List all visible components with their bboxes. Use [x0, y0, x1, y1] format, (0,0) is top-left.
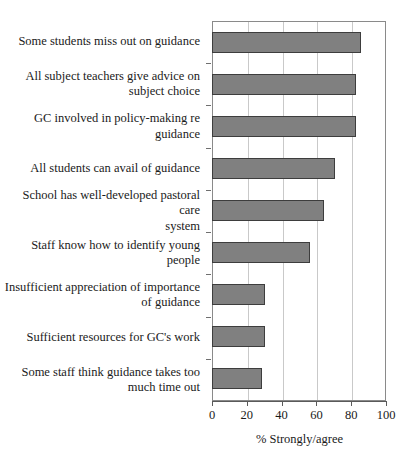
bar-row [213, 274, 385, 316]
category-tick [206, 63, 211, 64]
category-tick [206, 359, 211, 360]
bar-row [213, 64, 385, 106]
bar [212, 242, 310, 263]
category-label: Some staff think guidance takes toomuch … [0, 359, 206, 401]
category-tick [206, 190, 211, 191]
bar [212, 158, 335, 179]
category-label-line: subject choice [25, 84, 200, 99]
bar [212, 74, 356, 95]
category-label-line: School has well-developed pastoral care [0, 188, 200, 219]
bar-row [213, 358, 385, 400]
category-label-line: All subject teachers give advice on [25, 69, 200, 84]
x-tick-100 [386, 401, 387, 406]
category-label: Some students miss out on guidance [0, 21, 206, 63]
category-label-line: Some staff think guidance takes too [21, 365, 200, 380]
category-label-line: Staff know how to identify young [31, 238, 200, 253]
category-label: Staff know how to identify youngpeople [0, 232, 206, 274]
x-tick-label: 0 [209, 408, 215, 423]
bar-series [213, 22, 385, 400]
x-tick-label: 20 [241, 408, 254, 423]
category-label-line: of guidance [5, 295, 200, 310]
plot-area [212, 21, 386, 401]
category-label-line: people [31, 253, 200, 268]
category-label: Insufficient appreciation of importanceo… [0, 274, 206, 316]
x-axis-line [212, 401, 387, 402]
category-tick [206, 232, 211, 233]
category-label-line: much time out [21, 380, 200, 395]
category-tick [206, 105, 211, 106]
bar [212, 32, 361, 53]
category-tick [206, 274, 211, 275]
category-label-line: Insufficient appreciation of importance [5, 280, 200, 295]
category-label-line: Some students miss out on guidance [18, 34, 200, 49]
category-label-line: All students can avail of guidance [30, 161, 200, 176]
category-tick [206, 317, 211, 318]
category-label: All subject teachers give advice onsubje… [0, 63, 206, 105]
category-label: Sufficient resources for GC's work [0, 317, 206, 359]
category-axis-labels: Some students miss out on guidanceAll su… [0, 21, 206, 401]
x-tick-label: 40 [275, 408, 288, 423]
bar-row [213, 106, 385, 148]
category-label-line: guidance [34, 127, 200, 142]
x-tick-label: 60 [310, 408, 323, 423]
bar [212, 116, 356, 137]
category-label-line: system [0, 219, 200, 234]
x-axis-title: % Strongly/agree [212, 432, 387, 447]
x-tick-60 [316, 401, 317, 406]
category-label: School has well-developed pastoral cares… [0, 190, 206, 232]
category-label-line: Sufficient resources for GC's work [26, 330, 200, 345]
x-tick-label: 100 [377, 408, 396, 423]
bar-row [213, 22, 385, 64]
bar-chart: Some students miss out on guidanceAll su… [0, 0, 416, 467]
x-tick-40 [282, 401, 283, 406]
bar [212, 200, 324, 221]
bar [212, 284, 265, 305]
x-tick-20 [247, 401, 248, 406]
bar [212, 368, 262, 389]
bar [212, 326, 265, 347]
bar-row [213, 316, 385, 358]
category-tick [206, 148, 211, 149]
category-label: GC involved in policy-making reguidance [0, 105, 206, 147]
bar-row [213, 190, 385, 232]
x-tick-80 [351, 401, 352, 406]
x-tick-label: 80 [345, 408, 358, 423]
bar-row [213, 148, 385, 190]
bar-row [213, 232, 385, 274]
category-label: All students can avail of guidance [0, 148, 206, 190]
x-tick-0 [212, 401, 213, 406]
category-label-line: GC involved in policy-making re [34, 111, 200, 126]
